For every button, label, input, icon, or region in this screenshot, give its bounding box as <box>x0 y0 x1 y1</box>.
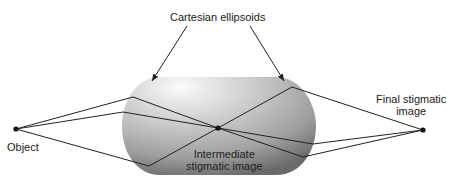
object-label: Object <box>7 141 39 153</box>
object-point <box>13 126 18 131</box>
intermediate-label: Intermediate stigmatic image <box>186 148 262 172</box>
intermediate-label-line2: stigmatic image <box>186 160 262 172</box>
arrow-left <box>152 26 187 81</box>
intermediate-image-point <box>215 125 220 130</box>
final-label-line2: image <box>376 105 446 117</box>
final-image-label: Final stigmatic image <box>376 93 446 117</box>
final-label-line1: Final stigmatic <box>376 93 446 105</box>
intermediate-label-line1: Intermediate <box>186 148 262 160</box>
arrow-right <box>250 26 284 81</box>
cartesian-ellipsoids-label: Cartesian ellipsoids <box>170 11 265 23</box>
final-image-point <box>420 127 425 132</box>
